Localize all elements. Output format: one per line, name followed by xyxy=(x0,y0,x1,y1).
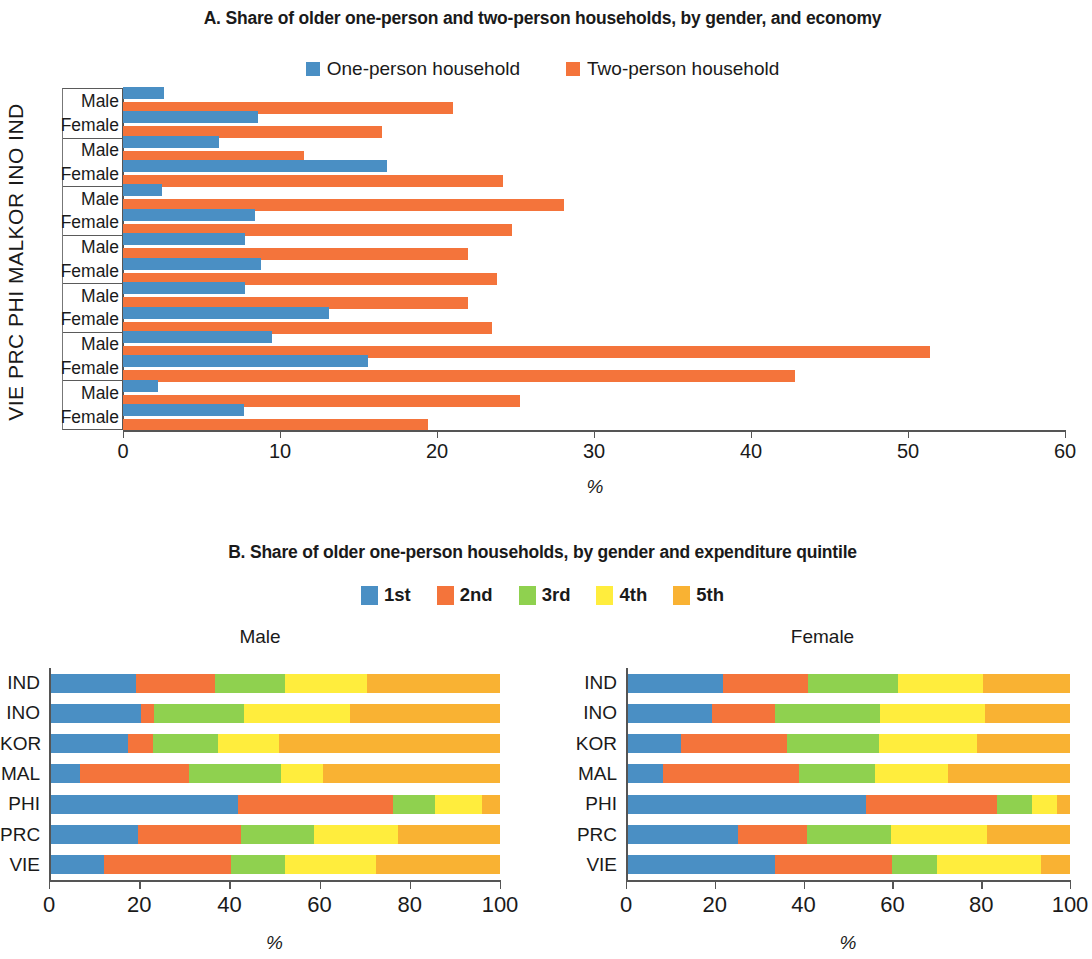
chart-b-row-label-phi: PHI xyxy=(560,793,626,815)
chart-b-stacked-bar xyxy=(49,825,500,844)
chart-a-group-ino: MaleFemale xyxy=(63,138,123,187)
chart-a-title: A. Share of older one-person and two-per… xyxy=(0,8,1085,29)
legend-item-q2: 2nd xyxy=(437,584,493,606)
chart-a-tick xyxy=(437,430,438,438)
chart-b-segment-q2 xyxy=(681,734,788,753)
chart-a-bar-one-person xyxy=(123,184,162,196)
chart-b-row-label-ino: INO xyxy=(0,702,49,724)
chart-b-row-label-phi: PHI xyxy=(0,793,49,815)
chart-b-rows-male: INDINOKORMALPHIPRCVIE xyxy=(0,668,500,880)
chart-b-segment-q1 xyxy=(626,764,663,783)
chart-b-segment-q5 xyxy=(1041,855,1070,874)
chart-b-subtitle-female: Female xyxy=(560,626,1085,648)
chart-b-row: VIE xyxy=(560,850,1070,880)
legend-label-q1: 1st xyxy=(384,584,411,606)
chart-b-segment-q1 xyxy=(626,734,681,753)
chart-b-row: KOR xyxy=(0,729,500,759)
chart-b-segment-q5 xyxy=(482,795,500,814)
chart-a-group-bars-vie xyxy=(123,381,1065,430)
chart-b-segment-q4 xyxy=(1032,795,1056,814)
chart-b-row-label-ind: IND xyxy=(0,672,49,694)
chart-b-row-label-kor: KOR xyxy=(560,733,626,755)
chart-a-bar-row xyxy=(123,137,1065,161)
chart-b-segment-q1 xyxy=(626,704,712,723)
chart-b-segment-q5 xyxy=(279,734,500,753)
chart-a-bar-row xyxy=(123,381,1065,405)
chart-a-tick-label: 0 xyxy=(117,440,128,463)
chart-b-segment-q1 xyxy=(49,764,80,783)
chart-b-tick xyxy=(139,880,140,889)
chart-b-row: KOR xyxy=(560,729,1070,759)
chart-a-bar-row xyxy=(123,259,1065,283)
chart-a-row-label: Female xyxy=(63,113,123,137)
chart-b-segment-q4 xyxy=(898,674,983,693)
legend-label-q4: 4th xyxy=(619,584,647,606)
chart-b-tick xyxy=(229,880,230,889)
chart-b-stacked-bar xyxy=(626,764,1070,783)
chart-a-row-label-table: MaleFemaleMaleFemaleMaleFemaleMaleFemale… xyxy=(62,88,123,430)
legend-item-q1: 1st xyxy=(361,584,411,606)
chart-b-segment-q5 xyxy=(977,734,1070,753)
chart-b-segment-q4 xyxy=(281,764,323,783)
chart-b-segment-q3 xyxy=(154,704,244,723)
chart-b-stacked-bar xyxy=(49,764,500,783)
chart-a-group-prc: MaleFemale xyxy=(63,332,123,381)
chart-b-segment-q5 xyxy=(1057,795,1070,814)
chart-b-tick-label: 20 xyxy=(127,892,151,918)
chart-b-segment-q5 xyxy=(985,704,1070,723)
chart-a-bar-one-person xyxy=(123,331,272,343)
chart-b-segment-q2 xyxy=(141,704,155,723)
chart-b-male-plot: INDINOKORMALPHIPRCVIE020406080100% xyxy=(0,668,520,898)
chart-a-tick-label: 30 xyxy=(583,440,605,463)
chart-b-segment-q2 xyxy=(104,855,230,874)
chart-b-tick xyxy=(1070,880,1071,889)
chart-b-row: MAL xyxy=(560,759,1070,789)
chart-a-tick xyxy=(594,430,595,438)
chart-b-segment-q1 xyxy=(626,825,738,844)
chart-b-stacked-bar xyxy=(49,674,500,693)
chart-b-segment-q1 xyxy=(49,734,128,753)
chart-a-tick-label: 20 xyxy=(426,440,448,463)
legend-label-q5: 5th xyxy=(696,584,724,606)
chart-b-segment-q4 xyxy=(314,825,398,844)
chart-b-subtitle-male: Male xyxy=(0,626,520,648)
chart-a-bar-one-person xyxy=(123,136,219,148)
chart-b-row-label-prc: PRC xyxy=(0,824,49,846)
chart-b-tick-label: 80 xyxy=(398,892,422,918)
chart-b-x-axis-line-female xyxy=(626,880,1070,882)
chart-b-row-label-vie: VIE xyxy=(560,854,626,876)
chart-a-bar-one-person xyxy=(123,380,158,392)
chart-a-row-label: Male xyxy=(63,236,123,260)
chart-a-row-label: Female xyxy=(63,405,123,429)
chart-a-bar-one-person xyxy=(123,355,368,367)
chart-b-tick xyxy=(410,880,411,889)
chart-a-bar-row xyxy=(123,283,1065,307)
chart-b-row: PRC xyxy=(0,819,500,849)
chart-b-segment-q3 xyxy=(231,855,285,874)
chart-b-stacked-bar xyxy=(626,855,1070,874)
chart-b-stacked-bar xyxy=(626,674,1070,693)
chart-b-segment-q1 xyxy=(49,855,104,874)
chart-a-tick-label: 10 xyxy=(269,440,291,463)
chart-b-segment-q2 xyxy=(80,764,190,783)
chart-b-tick-label: 80 xyxy=(969,892,993,918)
chart-b-panel: B. Share of older one-person households,… xyxy=(0,540,1085,959)
chart-a-bar-row xyxy=(123,186,1065,210)
legend-label-q2: 2nd xyxy=(460,584,493,606)
chart-a-tick xyxy=(751,430,752,438)
legend-item-q5: 5th xyxy=(673,584,724,606)
chart-b-stacked-bar xyxy=(626,825,1070,844)
chart-b-stacked-bar xyxy=(49,855,500,874)
chart-a-tick-label: 50 xyxy=(897,440,919,463)
chart-b-tick xyxy=(626,880,627,889)
chart-a-bar-one-person xyxy=(123,404,244,416)
chart-b-segment-q2 xyxy=(138,825,240,844)
chart-a-row-label: Male xyxy=(63,187,123,211)
chart-a-bar-one-person xyxy=(123,111,258,123)
chart-b-segment-q3 xyxy=(808,674,898,693)
chart-a-bar-row xyxy=(123,405,1065,429)
chart-a-row-label: Female xyxy=(63,308,123,332)
chart-a-bar-row xyxy=(123,88,1065,112)
chart-a-row-label: Male xyxy=(63,89,123,113)
chart-b-stacked-bar xyxy=(626,704,1070,723)
